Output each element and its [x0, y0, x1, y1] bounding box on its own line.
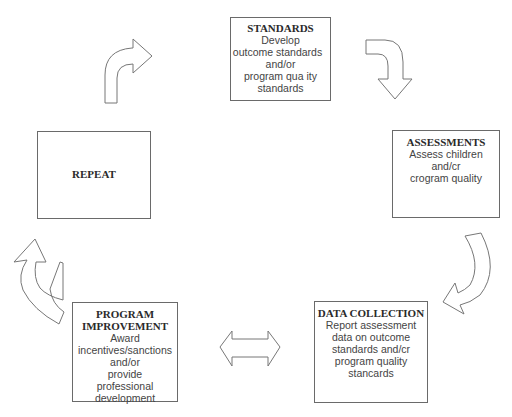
program-improvement-text-line: provide — [73, 368, 177, 380]
arrow-assessments-to-data-collection — [443, 233, 490, 314]
assessments-text-line: and/cr — [393, 160, 499, 172]
program-improvement-text-line: incentives/sanctions — [73, 344, 177, 356]
program-improvement-title: IMPROVEMENT — [73, 320, 177, 332]
data-collection-text-line: program quality — [315, 355, 427, 367]
data-collection-text-line: data on outcome — [315, 331, 427, 343]
arrow-program-improvement-to-repeat — [14, 239, 64, 324]
assessments-text-line: Assess children — [393, 148, 499, 160]
standards-text-line: and/or — [231, 58, 330, 70]
standards-text-line: Develop — [231, 34, 330, 46]
data-collection-text-line: Report assessment — [315, 319, 427, 331]
arrow-repeat-to-standards — [105, 39, 152, 103]
data-collection-title: DATA COLLECTION — [315, 307, 427, 319]
arrow-data-collection-program-improvement — [220, 331, 280, 366]
standards-node: STANDARDS Develop outcome standards and/… — [230, 17, 331, 101]
program-improvement-text-line: development — [73, 392, 177, 404]
standards-text-line: outcome standards — [225, 46, 330, 58]
assessments-node: ASSESSMENTS Assess children and/cr crogr… — [392, 130, 500, 218]
data-collection-node: DATA COLLECTION Report assessment data o… — [314, 301, 428, 403]
program-improvement-title: PROGRAM — [73, 308, 177, 320]
repeat-title: REPEAT — [72, 168, 116, 180]
assessments-text-line: crogram quality — [393, 172, 499, 184]
standards-title: STANDARDS — [231, 22, 330, 34]
standards-text-line: program qua ity — [231, 70, 330, 82]
program-improvement-text-line: and/or — [73, 356, 177, 368]
program-improvement-node: PROGRAM IMPROVEMENT Award incentives/san… — [72, 302, 178, 402]
arrow-standards-to-assessments — [366, 40, 412, 99]
standards-text-line: standards — [231, 82, 330, 94]
program-improvement-text-line: professional — [73, 380, 177, 392]
repeat-node: REPEAT — [37, 131, 151, 219]
assessments-title: ASSESSMENTS — [393, 136, 499, 148]
program-improvement-text-line: Award — [73, 332, 177, 344]
data-collection-text-line: stancards — [315, 367, 427, 379]
data-collection-text-line: standards and/cr — [315, 343, 427, 355]
